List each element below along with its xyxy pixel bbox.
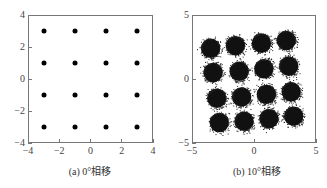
caption-b: (b) 10°相移 [212, 163, 302, 178]
noise-cluster [200, 62, 226, 88]
noise-cluster [276, 53, 300, 79]
y-tick [192, 15, 196, 16]
noise-cluster [252, 57, 276, 81]
noise-cluster [254, 83, 279, 108]
noise-cluster [274, 29, 299, 54]
noise-cluster [224, 34, 248, 59]
noise-cluster [233, 109, 255, 135]
noise-cluster [197, 37, 224, 63]
y-tick-label: 5 [172, 10, 189, 20]
noise-cluster [282, 105, 305, 129]
scatter-clusters-b [0, 0, 327, 188]
noise-cluster [258, 107, 283, 133]
noise-cluster [209, 108, 232, 136]
x-tick [316, 139, 317, 143]
noise-cluster [230, 84, 255, 110]
y-tick [192, 143, 196, 144]
noise-cluster [206, 86, 230, 110]
noise-cluster [229, 60, 252, 86]
y-tick [192, 79, 196, 80]
y-tick-label: 0 [172, 74, 189, 84]
y-tick-label: −5 [172, 138, 189, 148]
x-tick-label: 5 [308, 146, 324, 156]
noise-cluster [249, 32, 275, 55]
x-tick [254, 139, 255, 143]
x-tick-label: 0 [246, 146, 262, 156]
noise-cluster [280, 79, 304, 105]
